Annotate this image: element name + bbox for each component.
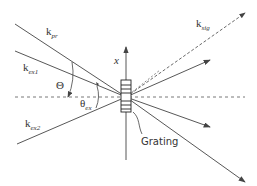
label-k-pr: kpr: [46, 26, 58, 40]
outgoing-beam-upper: [126, 60, 210, 97]
label-theta-ex: θex: [80, 98, 92, 112]
diagram-lines: [0, 0, 257, 186]
label-grating: Grating: [141, 137, 178, 147]
k-pr-beam: [15, 24, 126, 97]
k-sig-beam: [126, 13, 245, 97]
label-k-sig: ksig: [196, 18, 210, 32]
label-x-axis: x: [114, 55, 119, 66]
grating-pointer: [133, 112, 142, 134]
theta-big-arc: [68, 62, 73, 97]
label-k-ex2: kex2: [25, 118, 40, 132]
grating-element: [121, 80, 131, 112]
grating-beam-diagram: kpr kex1 kex2 ksig Θ θex x Grating: [0, 0, 257, 186]
theta-ex-arc: [96, 86, 98, 108]
label-theta-big: Θ: [56, 80, 64, 91]
label-k-ex1: kex1: [23, 62, 38, 76]
